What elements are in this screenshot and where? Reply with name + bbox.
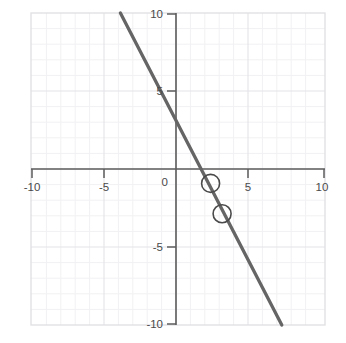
y-tick-label-10: 10 — [150, 8, 163, 20]
origin-label-0: 0 — [162, 176, 168, 188]
x-tick-label--10: -10 — [24, 181, 41, 193]
y-tick-label--10: -10 — [146, 318, 163, 330]
y-tick-label--5: -5 — [153, 241, 163, 253]
x-tick-label--5: -5 — [99, 181, 109, 193]
y-tick-label-5: 5 — [157, 85, 163, 97]
chart-container: -10 -5 5 10 0 10 5 -5 -10 — [0, 0, 346, 343]
x-tick-label-5: 5 — [245, 181, 251, 193]
coordinate-plane-plot: -10 -5 5 10 0 10 5 -5 -10 — [0, 0, 346, 343]
x-tick-label-10: 10 — [316, 181, 329, 193]
